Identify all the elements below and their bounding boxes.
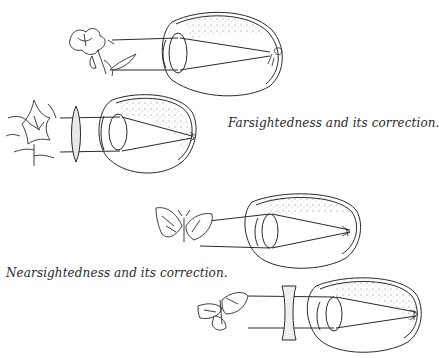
- flower-icon: [70, 29, 136, 76]
- nearsighted-eye: [200, 194, 361, 268]
- farsightedness-caption: Farsightedness and its correction.: [228, 116, 439, 130]
- moth-icon: [198, 293, 248, 331]
- butterfly-icon: [156, 208, 212, 242]
- farsighted-eye: [112, 12, 282, 96]
- nearsightedness-caption: Nearsightedness and its correction.: [6, 266, 228, 280]
- concave-lens-icon: [282, 286, 296, 340]
- convex-lens-icon: [72, 106, 81, 162]
- nearsighted-corrected-eye: [248, 278, 421, 352]
- lily-flower-icon: [6, 100, 56, 166]
